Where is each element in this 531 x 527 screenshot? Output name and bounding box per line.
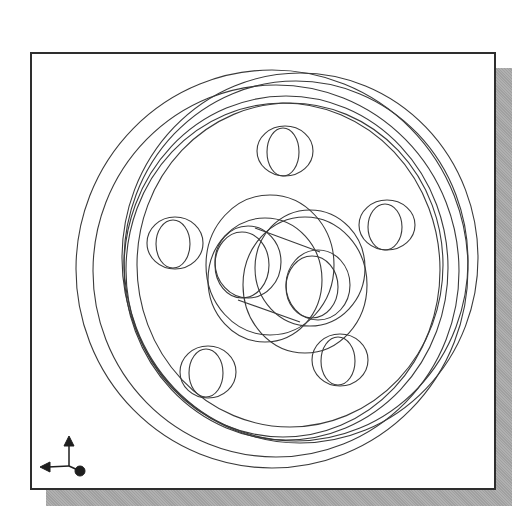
outer-rim-edge <box>76 70 468 468</box>
hub-outer-edge <box>206 195 334 335</box>
inner-rim-edge <box>122 73 478 443</box>
hub-bore-edge <box>215 226 281 298</box>
hub-group <box>206 195 367 353</box>
wheel-wireframe-drawing[interactable] <box>0 0 531 527</box>
hub-tangent-line <box>255 228 320 252</box>
triad-left-arrow-icon <box>40 462 50 472</box>
outer-rim-group <box>76 70 468 468</box>
bolt-hole-top-back <box>267 128 299 176</box>
bolt-hole-left-front <box>147 217 203 269</box>
hub-bore-edge <box>215 232 269 298</box>
triad-up-arrow-icon <box>64 436 74 446</box>
hub-bore-edge <box>286 250 350 320</box>
bolt-hole-bottom-left-front <box>180 346 236 398</box>
bolt-hole-right-back <box>368 204 402 250</box>
bolt-hole-bottom-left-back <box>189 349 223 397</box>
hub-outer-edge <box>243 217 367 353</box>
bolt-hole-bottom-right-back <box>321 337 355 385</box>
triad-z-dot-icon <box>75 466 85 476</box>
hub-bore-edge <box>286 256 338 318</box>
axis-triad-icon <box>40 436 85 476</box>
bolt-hole-right-front <box>359 200 415 250</box>
triad-x-axis <box>48 466 69 467</box>
inner-rim-group <box>122 73 478 443</box>
inner-rim-edge <box>137 103 443 427</box>
bolt-hole-left-back <box>156 220 190 268</box>
bolt-hole-top-front <box>257 126 313 176</box>
